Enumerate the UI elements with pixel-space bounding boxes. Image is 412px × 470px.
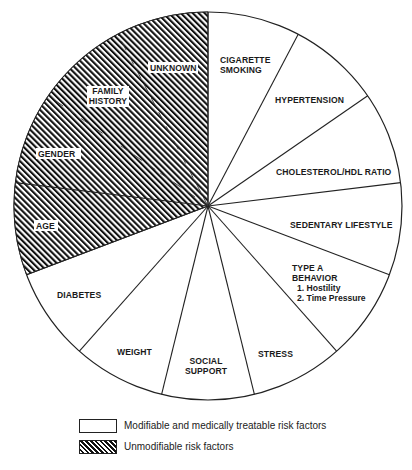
- label-cholesterol: CHOLESTEROL/HDL RATIO: [276, 167, 392, 177]
- label-gender: GENDER: [38, 149, 76, 159]
- label-hypertension: HYPERTENSION: [275, 95, 344, 105]
- label-time-pressure: 2. Time Pressure: [297, 293, 366, 303]
- label-weight: WEIGHT: [117, 347, 153, 357]
- legend-swatch-white: [79, 419, 117, 433]
- label-cigarette-smoking-2: SMOKING: [220, 65, 262, 75]
- label-family-history-2: HISTORY: [89, 96, 128, 106]
- label-type-a-behavior-2: BEHAVIOR: [292, 273, 338, 283]
- label-type-a-behavior: TYPE A: [292, 263, 323, 273]
- legend: Modifiable and medically treatable risk …: [79, 416, 399, 458]
- label-social-support-2: SUPPORT: [185, 366, 228, 376]
- legend-label-modifiable: Modifiable and medically treatable risk …: [124, 420, 326, 431]
- label-diabetes: DIABETES: [57, 290, 101, 300]
- label-cigarette-smoking: CIGARETTE: [220, 55, 271, 65]
- legend-item-modifiable: Modifiable and medically treatable risk …: [79, 416, 399, 435]
- legend-item-unmodifiable: Unmodifiable risk factors: [79, 437, 399, 456]
- label-hostility: 1. Hostility: [297, 283, 341, 293]
- pie-chart: CIGARETTE SMOKING HYPERTENSION CHOLESTER…: [0, 0, 412, 410]
- label-unknown: UNKNOWN: [150, 63, 197, 73]
- label-stress: STRESS: [258, 349, 293, 359]
- legend-label-unmodifiable: Unmodifiable risk factors: [124, 441, 233, 452]
- label-social-support: SOCIAL: [189, 356, 222, 366]
- legend-swatch-hatched: [79, 440, 117, 454]
- label-age: AGE: [36, 221, 55, 231]
- label-family-history: FAMILY: [92, 86, 123, 96]
- label-sedentary-lifestyle: SEDENTARY LIFESTYLE: [290, 220, 393, 230]
